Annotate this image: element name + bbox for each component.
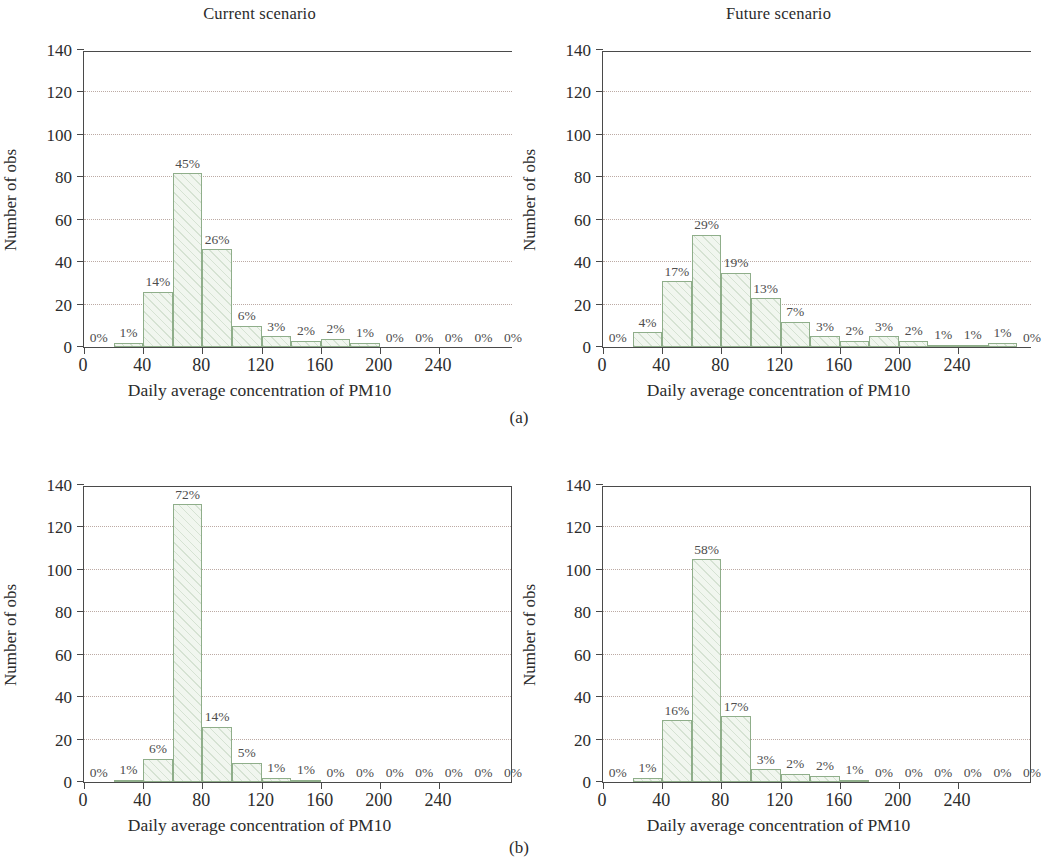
figure-row-a: Current scenario Number of obs 020406080…: [0, 0, 1038, 405]
y-axis-label: Number of obs: [0, 51, 24, 348]
histogram-bar: [1017, 346, 1046, 347]
bar-value-label: 1%: [297, 762, 315, 778]
histogram-bar: [291, 341, 321, 347]
y-axis-label-text: Number of obs: [1, 149, 21, 251]
x-tick-mark: [202, 347, 203, 354]
histogram-bar: [781, 322, 811, 347]
bar-value-label: 3%: [816, 319, 834, 335]
y-tick-mark: [596, 484, 603, 485]
bar-value-label: 2%: [786, 756, 804, 772]
bars: 0%1%14%45%26%6%3%2%2%1%0%0%0%0%0%: [84, 52, 512, 347]
y-tick-label: 20: [545, 296, 591, 316]
y-tick-mark: [596, 219, 603, 220]
y-axis-label-text: Number of obs: [520, 149, 540, 251]
bar-value-label: 1%: [993, 325, 1011, 341]
y-tick-mark: [77, 304, 84, 305]
y-tick-mark: [77, 696, 84, 697]
bar-value-label: 0%: [356, 765, 374, 781]
histogram-bar: [840, 341, 870, 347]
histogram-bar: [603, 346, 633, 347]
y-tick-label: 0: [26, 773, 72, 793]
y-tick-mark: [596, 526, 603, 527]
x-tick-mark: [899, 347, 900, 354]
x-axis-label: Daily average concentration of PM10: [0, 380, 519, 401]
x-tick-mark: [380, 347, 381, 354]
plot-area: 020406080100120140 0%1%14%45%26%6%3%2%2%…: [83, 51, 512, 348]
histogram-bar: [662, 281, 692, 347]
y-tick-label: 60: [545, 646, 591, 666]
x-tick-label: 40: [133, 355, 151, 376]
y-tick-mark: [77, 569, 84, 570]
x-tick-label: 120: [247, 790, 274, 811]
histogram-bar: [350, 781, 380, 782]
panel-b-future: Number of obs 020406080100120140 0%1%16%…: [519, 435, 1038, 840]
histogram-bar: [380, 346, 410, 347]
panel-b-current: Number of obs 020406080100120140 0%1%6%7…: [0, 435, 519, 840]
x-tick-mark: [603, 782, 604, 789]
bar-value-label: 0%: [609, 765, 627, 781]
y-tick-label: 120: [26, 83, 72, 103]
y-tick-label: 80: [545, 168, 591, 188]
x-tick-mark: [262, 347, 263, 354]
y-tick-label: 100: [26, 126, 72, 146]
histogram-bar: [469, 346, 499, 347]
histogram-bar: [350, 343, 380, 347]
y-tick-label: 120: [545, 518, 591, 538]
histogram-bar: [899, 341, 929, 347]
x-tick-label: 160: [825, 790, 852, 811]
x-tick-label: 240: [425, 790, 452, 811]
bar-value-label: 2%: [326, 321, 344, 337]
x-tick-mark: [721, 347, 722, 354]
x-tick-label: 80: [192, 355, 210, 376]
x-tick-label: 200: [365, 790, 392, 811]
y-tick-mark: [77, 781, 84, 782]
y-tick-label: 60: [545, 211, 591, 231]
y-tick-mark: [77, 526, 84, 527]
x-tick-label: 160: [306, 790, 333, 811]
bars: 0%1%16%58%17%3%2%2%1%0%0%0%0%0%0%: [603, 487, 1030, 782]
histogram-bar: [321, 781, 351, 782]
bar-value-label: 0%: [445, 330, 463, 346]
y-axis-label-text: Number of obs: [520, 584, 540, 686]
y-tick-label: 80: [26, 168, 72, 188]
histogram-bar: [232, 763, 262, 782]
bar-value-label: 0%: [474, 765, 492, 781]
y-tick-mark: [596, 611, 603, 612]
x-tick-label: 40: [133, 790, 151, 811]
bar-value-label: 0%: [474, 330, 492, 346]
bar-value-label: 1%: [119, 762, 137, 778]
x-tick-mark: [321, 782, 322, 789]
x-tick-label: 200: [365, 355, 392, 376]
histogram-bar: [958, 345, 988, 347]
histogram-bar: [781, 774, 811, 782]
x-tick-label: 240: [425, 355, 452, 376]
histogram-bar: [409, 346, 439, 347]
histogram-bar: [633, 332, 663, 347]
x-tick-mark: [958, 782, 959, 789]
x-tick-mark: [662, 347, 663, 354]
histogram-bar: [751, 298, 781, 347]
y-tick-mark: [596, 49, 603, 50]
y-tick-label: 0: [26, 338, 72, 358]
histogram-bar: [869, 336, 899, 347]
bar-value-label: 0%: [386, 765, 404, 781]
bar-value-label: 45%: [175, 156, 200, 172]
histogram-bar: [232, 326, 262, 347]
histogram-bar: [928, 781, 958, 782]
histogram-bar: [173, 173, 203, 347]
plot-area: 020406080100120140 0%1%16%58%17%3%2%2%1%…: [602, 486, 1031, 783]
x-tick-label: 40: [652, 355, 670, 376]
histogram-bar: [751, 769, 781, 782]
x-axis-label: Daily average concentration of PM10: [0, 815, 519, 836]
histogram-bar: [958, 781, 988, 782]
y-tick-label: 40: [545, 688, 591, 708]
bar-value-label: 0%: [445, 765, 463, 781]
x-tick-label: 120: [247, 355, 274, 376]
bar-value-label: 2%: [845, 323, 863, 339]
histogram-bar: [840, 780, 870, 782]
y-tick-label: 100: [545, 561, 591, 581]
bar-value-label: 0%: [993, 765, 1011, 781]
y-tick-mark: [596, 654, 603, 655]
panel-a-future: Future scenario Number of obs 0204060801…: [519, 0, 1038, 405]
histogram-bar: [84, 346, 114, 347]
